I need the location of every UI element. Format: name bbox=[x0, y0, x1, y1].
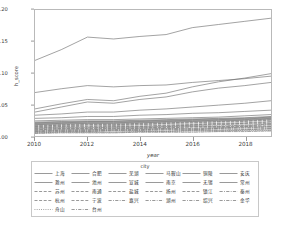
legend-item[interactable]: 舟山 bbox=[34, 207, 71, 213]
y-tick-label: 0.20 bbox=[0, 6, 8, 12]
x-tick-mark bbox=[87, 137, 88, 141]
legend-item[interactable]: 湖州 bbox=[145, 198, 182, 204]
legend-item[interactable]: 泰州 bbox=[219, 189, 256, 195]
legend-item[interactable]: 盐城 bbox=[108, 189, 145, 195]
legend-item[interactable]: 宁波 bbox=[71, 198, 108, 204]
legend-label: 嘉兴 bbox=[129, 198, 139, 204]
legend-row: 滁州池州宣城南京无锡常州 bbox=[34, 178, 256, 187]
legend-line-swatch bbox=[71, 171, 90, 176]
legend-line-swatch bbox=[71, 180, 90, 185]
legend-line-swatch bbox=[219, 171, 238, 176]
plot-area bbox=[34, 9, 272, 137]
legend-label: 金华 bbox=[240, 198, 250, 204]
legend-item[interactable]: 常州 bbox=[219, 180, 256, 186]
legend-item[interactable]: 绍兴 bbox=[182, 198, 219, 204]
legend-item[interactable]: 南京 bbox=[145, 180, 182, 186]
legend-line-swatch bbox=[219, 189, 238, 194]
series-line bbox=[35, 82, 271, 112]
legend-line-swatch bbox=[34, 171, 53, 176]
legend-item[interactable]: 苏州 bbox=[34, 189, 71, 195]
legend-item[interactable]: 合肥 bbox=[71, 171, 108, 177]
legend-item[interactable]: 马鞍山 bbox=[145, 171, 182, 177]
legend-label: 南通 bbox=[92, 189, 102, 195]
y-tick-label: 0.05 bbox=[0, 102, 8, 108]
legend-label: 南京 bbox=[166, 180, 176, 186]
legend-item[interactable]: 镇江 bbox=[182, 189, 219, 195]
legend-line-swatch bbox=[219, 180, 238, 185]
legend-line-swatch bbox=[182, 171, 201, 176]
legend-label: 泰州 bbox=[240, 189, 250, 195]
legend-label: 宁波 bbox=[92, 198, 102, 204]
legend-label: 杭州 bbox=[55, 198, 65, 204]
legend-label: 无锡 bbox=[203, 180, 213, 186]
legend-line-swatch bbox=[145, 180, 164, 185]
legend-line-swatch bbox=[34, 189, 53, 194]
legend-item[interactable]: 台州 bbox=[71, 207, 108, 213]
legend-row: 上海合肥芜湖马鞍山铜陵安庆 bbox=[34, 169, 256, 178]
legend-item[interactable]: 扬州 bbox=[145, 189, 182, 195]
legend-item[interactable]: 安庆 bbox=[219, 171, 256, 177]
legend-item[interactable]: 无锡 bbox=[182, 180, 219, 186]
series-line bbox=[35, 101, 271, 115]
x-tick-label: 2010 bbox=[14, 141, 54, 147]
y-axis-label: h_score bbox=[13, 46, 19, 106]
legend-label: 台州 bbox=[92, 207, 102, 213]
legend-line-swatch bbox=[34, 207, 53, 212]
series-line bbox=[35, 76, 271, 92]
legend-item[interactable]: 铜陵 bbox=[182, 171, 219, 177]
legend-item[interactable]: 池州 bbox=[71, 180, 108, 186]
legend-label: 合肥 bbox=[92, 171, 102, 177]
legend-label: 芜湖 bbox=[129, 171, 139, 177]
legend-row: 舟山台州 bbox=[34, 205, 256, 214]
legend-label: 铜陵 bbox=[203, 171, 213, 177]
legend-item[interactable]: 嘉兴 bbox=[108, 198, 145, 204]
x-tick-mark bbox=[34, 137, 35, 141]
legend-label: 湖州 bbox=[166, 198, 176, 204]
x-tick-label: 2018 bbox=[226, 141, 266, 147]
x-tick-label: 2012 bbox=[67, 141, 107, 147]
legend-body: 上海合肥芜湖马鞍山铜陵安庆滁州池州宣城南京无锡常州苏州南通盐城扬州镇江泰州杭州宁… bbox=[34, 169, 256, 214]
legend-line-swatch bbox=[145, 189, 164, 194]
legend-label: 舟山 bbox=[55, 207, 65, 213]
legend-line-swatch bbox=[34, 180, 53, 185]
legend-item[interactable]: 金华 bbox=[219, 198, 256, 204]
legend-line-swatch bbox=[219, 198, 238, 203]
legend-line-swatch bbox=[145, 171, 164, 176]
x-tick-label: 2016 bbox=[173, 141, 213, 147]
legend-label: 安庆 bbox=[240, 171, 250, 177]
legend-label: 上海 bbox=[55, 171, 65, 177]
legend-line-swatch bbox=[182, 189, 201, 194]
legend-row: 杭州宁波嘉兴湖州绍兴金华 bbox=[34, 196, 256, 205]
legend-label: 马鞍山 bbox=[166, 171, 181, 177]
legend-line-swatch bbox=[182, 180, 201, 185]
legend-item[interactable]: 芜湖 bbox=[108, 171, 145, 177]
chart-figure: h_score 0.000.050.100.150.20 20102012201… bbox=[0, 0, 284, 225]
legend-label: 宣城 bbox=[129, 180, 139, 186]
x-tick-mark bbox=[246, 137, 247, 141]
legend-label: 滁州 bbox=[55, 180, 65, 186]
series-line bbox=[35, 110, 271, 118]
legend-item[interactable]: 宣城 bbox=[108, 180, 145, 186]
x-axis-label: year bbox=[34, 152, 272, 158]
y-tick-label: 0.00 bbox=[0, 134, 8, 140]
legend-item[interactable]: 南通 bbox=[71, 189, 108, 195]
y-tick-label: 0.15 bbox=[0, 38, 8, 44]
legend-item[interactable]: 滁州 bbox=[34, 180, 71, 186]
legend-row: 苏州南通盐城扬州镇江泰州 bbox=[34, 187, 256, 196]
legend-item[interactable]: 上海 bbox=[34, 171, 71, 177]
series-canvas bbox=[35, 10, 271, 136]
legend-line-swatch bbox=[71, 189, 90, 194]
legend-label: 盐城 bbox=[129, 189, 139, 195]
legend-line-swatch bbox=[71, 207, 90, 212]
legend-label: 池州 bbox=[92, 180, 102, 186]
legend-label: 绍兴 bbox=[203, 198, 213, 204]
x-tick-mark bbox=[140, 137, 141, 141]
legend-line-swatch bbox=[108, 198, 127, 203]
legend-label: 常州 bbox=[240, 180, 250, 186]
legend-line-swatch bbox=[108, 189, 127, 194]
y-tick-label: 0.10 bbox=[0, 70, 8, 76]
legend-label: 扬州 bbox=[166, 189, 176, 195]
legend-line-swatch bbox=[145, 198, 164, 203]
legend-line-swatch bbox=[34, 198, 53, 203]
legend-item[interactable]: 杭州 bbox=[34, 198, 71, 204]
